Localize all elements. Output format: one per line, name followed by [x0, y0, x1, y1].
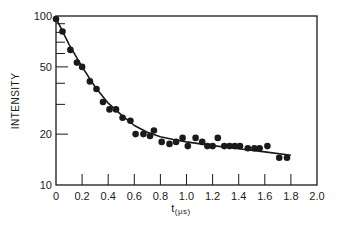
data-point	[127, 117, 134, 124]
x-tick-label: 0	[53, 190, 59, 202]
x-tick-label: 1.2	[205, 190, 220, 202]
data-point	[192, 135, 199, 142]
data-point	[245, 145, 252, 152]
data-point	[173, 139, 180, 146]
fit-curve	[56, 18, 291, 155]
y-tick-label: 10	[40, 179, 52, 191]
data-point	[106, 106, 113, 113]
x-tick-label: 0.2	[74, 190, 89, 202]
data-point	[256, 145, 263, 152]
data-point	[74, 59, 81, 66]
x-tick-label: 1.0	[179, 190, 194, 202]
x-tick-label: 0.8	[153, 190, 168, 202]
data-point	[113, 106, 120, 113]
data-point	[119, 114, 126, 121]
data-point	[87, 78, 94, 85]
x-tick-label: 1.8	[283, 190, 298, 202]
data-point	[132, 131, 139, 138]
data-point	[67, 47, 74, 54]
y-tick-label: 20	[40, 128, 52, 140]
data-point	[166, 141, 173, 148]
data-point	[215, 135, 222, 142]
y-tick-label: 50	[40, 61, 52, 73]
x-axis-ticks: 00.20.40.60.81.01.21.41.61.82.0	[53, 174, 325, 202]
data-point	[147, 133, 154, 140]
data-point	[151, 127, 158, 134]
intensity-decay-chart: 102050100 00.20.40.60.81.01.21.41.61.82.…	[0, 0, 339, 235]
y-axis-ticks: 102050100	[34, 10, 68, 191]
data-point	[158, 139, 165, 146]
data-point	[284, 154, 291, 161]
data-point	[93, 86, 100, 93]
data-point	[209, 143, 216, 150]
x-tick-label: 1.4	[231, 190, 246, 202]
data-point	[179, 135, 186, 142]
y-axis-label: INTENSITY	[10, 73, 21, 130]
data-point	[264, 143, 271, 150]
data-point	[100, 99, 107, 106]
data-point	[79, 64, 86, 71]
data-point	[185, 143, 192, 150]
data-point	[199, 139, 206, 146]
data-point	[237, 143, 244, 150]
x-axis-label-unit: (μs)	[175, 207, 191, 216]
data-point	[53, 16, 60, 23]
x-tick-label: 2.0	[309, 190, 324, 202]
data-point	[276, 154, 283, 161]
x-tick-label: 0.6	[127, 190, 142, 202]
data-point	[140, 131, 147, 138]
x-axis-label: t(μs)	[171, 202, 191, 216]
y-tick-label: 100	[34, 10, 52, 22]
x-tick-label: 1.6	[257, 190, 272, 202]
x-tick-label: 0.4	[101, 190, 116, 202]
data-point	[59, 28, 66, 35]
